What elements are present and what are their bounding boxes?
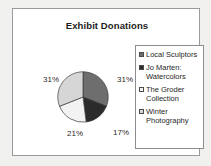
pie-chart[interactable] — [57, 71, 109, 123]
pie-slice-label-winter-photography: 31% — [43, 75, 59, 84]
legend-item-label: The Groder Collection — [146, 85, 201, 103]
legend-item-jo-marten-watercolors[interactable]: Jo Marten: Watercolors — [139, 63, 201, 81]
legend-swatch-icon — [139, 65, 144, 70]
chart-title: Exhibit Donations — [13, 20, 201, 31]
legend-item-label: Local Sculptors — [146, 50, 197, 59]
legend-item-label: Jo Marten: Watercolors — [146, 63, 201, 81]
legend-item-local-sculptors[interactable]: Local Sculptors — [139, 50, 201, 59]
pie-slice-label-the-groder-collection: 21% — [67, 129, 83, 138]
legend-item-the-groder-collection[interactable]: The Groder Collection — [139, 85, 201, 103]
legend-swatch-icon — [139, 52, 144, 57]
chart-legend: Local Sculptors Jo Marten: Watercolors T… — [135, 45, 204, 149]
legend-item-winter-photography[interactable]: Winter Photography — [139, 107, 201, 125]
pie-slice-group — [58, 72, 108, 122]
pie-slice-label-local-sculptors: 31% — [117, 75, 133, 84]
pie-slice-label-jo-marten-watercolors: 17% — [113, 128, 129, 137]
chart-frame: Exhibit Donations 31% 17% 21% 31% Local … — [12, 8, 200, 156]
legend-item-label: Winter Photography — [146, 107, 201, 125]
legend-swatch-icon — [139, 109, 144, 114]
pie-svg — [57, 71, 109, 123]
legend-swatch-icon — [139, 87, 144, 92]
